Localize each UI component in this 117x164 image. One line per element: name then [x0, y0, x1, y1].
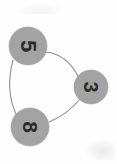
graph-nodes: 5 3 8: [9, 27, 108, 146]
node-label-8: 8: [19, 121, 42, 133]
graph-node-3[interactable]: 3: [74, 70, 108, 104]
edge-5-8: [10, 60, 16, 114]
edge-8-3: [49, 99, 80, 122]
node-label-5: 5: [16, 40, 41, 52]
edge-5-3: [46, 52, 78, 76]
node-label-3: 3: [80, 81, 102, 92]
graph-canvas: 5 3 8: [0, 0, 117, 164]
graph-node-8[interactable]: 8: [11, 108, 49, 146]
graph-node-5[interactable]: 5: [9, 27, 47, 65]
graph-figure: 5 3 8: [0, 0, 117, 164]
